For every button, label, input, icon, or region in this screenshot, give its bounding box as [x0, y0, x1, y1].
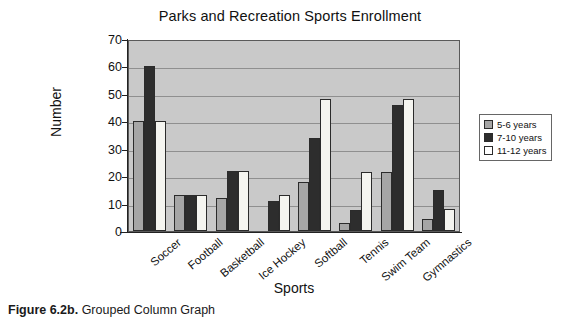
- bar[interactable]: [309, 138, 320, 231]
- bar[interactable]: [144, 66, 155, 231]
- legend-label: 11-12 years: [497, 145, 546, 156]
- legend-swatch: [484, 133, 493, 142]
- y-axis-tick-label: 60: [98, 61, 122, 74]
- x-axis-line: [120, 232, 462, 233]
- y-axis-tick-mark: [122, 40, 128, 41]
- bar-group: [212, 41, 253, 231]
- bars-layer: [129, 41, 459, 231]
- bar-group: [294, 41, 335, 231]
- caption-text: Grouped Column Graph: [82, 303, 215, 317]
- bar[interactable]: [444, 209, 455, 231]
- figure-caption: Figure 6.2b. Grouped Column Graph: [8, 303, 215, 317]
- y-axis-tick-mark: [122, 67, 128, 68]
- bar[interactable]: [381, 172, 392, 231]
- y-axis-tick-mark: [122, 95, 128, 96]
- y-axis-tick-label: 20: [98, 171, 122, 184]
- legend-item: 5-6 years: [484, 118, 546, 131]
- bar[interactable]: [216, 198, 227, 231]
- legend-item: 7-10 years: [484, 131, 546, 144]
- bar[interactable]: [174, 195, 185, 231]
- bar[interactable]: [196, 195, 207, 231]
- bar-group: [335, 41, 376, 231]
- plot-area: [128, 40, 460, 232]
- y-axis-title: Number: [48, 52, 64, 172]
- x-axis-tick-labels: SoccerFootballBasketballIce HockeySoftba…: [128, 234, 460, 282]
- y-axis-tick-label: 70: [98, 34, 122, 47]
- y-axis-tick-labels: 706050403020100: [96, 40, 122, 232]
- bar-group: [170, 41, 211, 231]
- y-axis-tick-mark: [122, 177, 128, 178]
- legend-item: 11-12 years: [484, 144, 546, 157]
- bar[interactable]: [227, 171, 238, 231]
- bar[interactable]: [279, 195, 290, 231]
- bar[interactable]: [185, 195, 196, 231]
- y-axis-tick-label: 50: [98, 89, 122, 102]
- chart-legend: 5-6 years7-10 years11-12 years: [479, 114, 552, 161]
- y-axis-tick-mark: [122, 122, 128, 123]
- x-axis-title: Sports: [128, 280, 460, 296]
- bar[interactable]: [238, 171, 249, 231]
- bar[interactable]: [155, 121, 166, 231]
- y-axis-tick-mark: [122, 205, 128, 206]
- bar-group: [377, 41, 418, 231]
- bar[interactable]: [403, 99, 414, 231]
- y-axis-tick-label: 10: [98, 199, 122, 212]
- bar[interactable]: [361, 172, 372, 231]
- y-axis-tick-label: 40: [98, 116, 122, 129]
- bar[interactable]: [422, 219, 433, 231]
- legend-swatch: [484, 120, 493, 129]
- chart-figure: Parks and Recreation Sports Enrollment N…: [0, 0, 586, 296]
- caption-figure-number: Figure 6.2b.: [8, 303, 78, 317]
- bar-group: [418, 41, 459, 231]
- bar-group: [129, 41, 170, 231]
- y-axis-tick-label: 0: [98, 226, 122, 239]
- bar[interactable]: [350, 210, 361, 231]
- bar[interactable]: [268, 201, 279, 231]
- bar[interactable]: [392, 105, 403, 231]
- bar[interactable]: [339, 223, 350, 231]
- legend-swatch: [484, 146, 493, 155]
- bar[interactable]: [433, 190, 444, 231]
- y-axis-tick-mark: [122, 150, 128, 151]
- chart-title: Parks and Recreation Sports Enrollment: [110, 8, 470, 24]
- legend-label: 7-10 years: [497, 132, 542, 143]
- legend-label: 5-6 years: [497, 119, 537, 130]
- y-axis-tick-label: 30: [98, 144, 122, 157]
- bar[interactable]: [298, 182, 309, 231]
- bar[interactable]: [320, 99, 331, 231]
- y-axis-tick-mark: [122, 232, 128, 233]
- bar[interactable]: [133, 121, 144, 231]
- bar-group: [253, 41, 294, 231]
